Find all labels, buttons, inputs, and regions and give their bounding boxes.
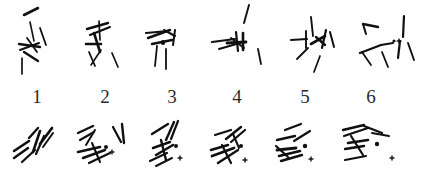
panel-label-row: 123456 bbox=[0, 84, 431, 110]
dot-marker bbox=[303, 144, 307, 148]
plus-marker bbox=[309, 157, 314, 162]
dot-marker bbox=[239, 144, 243, 148]
plus-marker bbox=[178, 156, 183, 161]
dot-marker bbox=[104, 145, 108, 149]
panel-label-4: 4 bbox=[222, 84, 252, 110]
dot-marker bbox=[174, 144, 178, 148]
plus-marker bbox=[390, 156, 395, 161]
figure-canvas: 123456 bbox=[0, 0, 431, 178]
panel-label-6: 6 bbox=[356, 84, 386, 110]
panel-label-5: 5 bbox=[290, 84, 320, 110]
dot-marker bbox=[375, 142, 379, 146]
panel-label-2: 2 bbox=[90, 84, 120, 110]
dot-marker bbox=[392, 39, 395, 42]
panel-label-3: 3 bbox=[157, 84, 187, 110]
panel-label-1: 1 bbox=[22, 84, 52, 110]
plus-marker bbox=[243, 158, 248, 163]
